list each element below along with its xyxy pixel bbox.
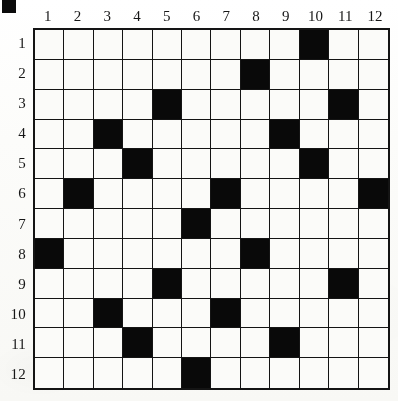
empty-cell-r4c2[interactable]	[64, 120, 93, 150]
empty-cell-r12c8[interactable]	[241, 358, 270, 388]
empty-cell-r11c2[interactable]	[64, 328, 93, 358]
empty-cell-r3c12[interactable]	[359, 90, 388, 120]
empty-cell-r9c12[interactable]	[359, 269, 388, 299]
empty-cell-r9c7[interactable]	[211, 269, 240, 299]
empty-cell-r11c3[interactable]	[94, 328, 123, 358]
empty-cell-r7c7[interactable]	[211, 209, 240, 239]
empty-cell-r10c11[interactable]	[329, 299, 358, 329]
empty-cell-r6c11[interactable]	[329, 179, 358, 209]
empty-cell-r5c7[interactable]	[211, 149, 240, 179]
empty-cell-r6c6[interactable]	[182, 179, 211, 209]
filled-cell-r4c9[interactable]	[270, 120, 299, 150]
empty-cell-r10c9[interactable]	[270, 299, 299, 329]
empty-cell-r10c12[interactable]	[359, 299, 388, 329]
empty-cell-r2c3[interactable]	[94, 60, 123, 90]
empty-cell-r2c12[interactable]	[359, 60, 388, 90]
empty-cell-r10c8[interactable]	[241, 299, 270, 329]
empty-cell-r4c1[interactable]	[35, 120, 64, 150]
empty-cell-r12c5[interactable]	[153, 358, 182, 388]
empty-cell-r7c5[interactable]	[153, 209, 182, 239]
filled-cell-r4c3[interactable]	[94, 120, 123, 150]
empty-cell-r10c2[interactable]	[64, 299, 93, 329]
empty-cell-r3c4[interactable]	[123, 90, 152, 120]
filled-cell-r5c4[interactable]	[123, 149, 152, 179]
empty-cell-r2c11[interactable]	[329, 60, 358, 90]
filled-cell-r8c1[interactable]	[35, 239, 64, 269]
filled-cell-r11c4[interactable]	[123, 328, 152, 358]
empty-cell-r7c9[interactable]	[270, 209, 299, 239]
empty-cell-r8c10[interactable]	[300, 239, 329, 269]
empty-cell-r2c5[interactable]	[153, 60, 182, 90]
empty-cell-r11c5[interactable]	[153, 328, 182, 358]
filled-cell-r9c5[interactable]	[153, 269, 182, 299]
filled-cell-r11c9[interactable]	[270, 328, 299, 358]
empty-cell-r4c6[interactable]	[182, 120, 211, 150]
empty-cell-r1c12[interactable]	[359, 30, 388, 60]
filled-cell-r2c8[interactable]	[241, 60, 270, 90]
empty-cell-r1c4[interactable]	[123, 30, 152, 60]
empty-cell-r8c7[interactable]	[211, 239, 240, 269]
empty-cell-r11c6[interactable]	[182, 328, 211, 358]
empty-cell-r5c5[interactable]	[153, 149, 182, 179]
empty-cell-r3c2[interactable]	[64, 90, 93, 120]
empty-cell-r12c9[interactable]	[270, 358, 299, 388]
empty-cell-r1c3[interactable]	[94, 30, 123, 60]
empty-cell-r6c5[interactable]	[153, 179, 182, 209]
empty-cell-r2c1[interactable]	[35, 60, 64, 90]
empty-cell-r5c1[interactable]	[35, 149, 64, 179]
empty-cell-r6c10[interactable]	[300, 179, 329, 209]
empty-cell-r3c9[interactable]	[270, 90, 299, 120]
empty-cell-r10c10[interactable]	[300, 299, 329, 329]
empty-cell-r4c10[interactable]	[300, 120, 329, 150]
filled-cell-r6c2[interactable]	[64, 179, 93, 209]
empty-cell-r1c9[interactable]	[270, 30, 299, 60]
empty-cell-r12c11[interactable]	[329, 358, 358, 388]
empty-cell-r2c4[interactable]	[123, 60, 152, 90]
empty-cell-r6c9[interactable]	[270, 179, 299, 209]
empty-cell-r2c6[interactable]	[182, 60, 211, 90]
empty-cell-r6c4[interactable]	[123, 179, 152, 209]
empty-cell-r1c1[interactable]	[35, 30, 64, 60]
empty-cell-r6c1[interactable]	[35, 179, 64, 209]
empty-cell-r8c5[interactable]	[153, 239, 182, 269]
empty-cell-r12c2[interactable]	[64, 358, 93, 388]
empty-cell-r9c4[interactable]	[123, 269, 152, 299]
empty-cell-r12c7[interactable]	[211, 358, 240, 388]
empty-cell-r12c4[interactable]	[123, 358, 152, 388]
filled-cell-r9c11[interactable]	[329, 269, 358, 299]
filled-cell-r7c6[interactable]	[182, 209, 211, 239]
empty-cell-r9c8[interactable]	[241, 269, 270, 299]
empty-cell-r3c8[interactable]	[241, 90, 270, 120]
empty-cell-r8c11[interactable]	[329, 239, 358, 269]
empty-cell-r1c7[interactable]	[211, 30, 240, 60]
filled-cell-r3c5[interactable]	[153, 90, 182, 120]
empty-cell-r4c11[interactable]	[329, 120, 358, 150]
filled-cell-r5c10[interactable]	[300, 149, 329, 179]
filled-cell-r1c10[interactable]	[300, 30, 329, 60]
empty-cell-r7c3[interactable]	[94, 209, 123, 239]
empty-cell-r11c8[interactable]	[241, 328, 270, 358]
filled-cell-r8c8[interactable]	[241, 239, 270, 269]
empty-cell-r3c1[interactable]	[35, 90, 64, 120]
empty-cell-r1c11[interactable]	[329, 30, 358, 60]
empty-cell-r10c5[interactable]	[153, 299, 182, 329]
empty-cell-r8c12[interactable]	[359, 239, 388, 269]
empty-cell-r8c3[interactable]	[94, 239, 123, 269]
empty-cell-r12c3[interactable]	[94, 358, 123, 388]
empty-cell-r8c6[interactable]	[182, 239, 211, 269]
empty-cell-r6c3[interactable]	[94, 179, 123, 209]
empty-cell-r9c3[interactable]	[94, 269, 123, 299]
empty-cell-r8c4[interactable]	[123, 239, 152, 269]
empty-cell-r5c3[interactable]	[94, 149, 123, 179]
empty-cell-r3c7[interactable]	[211, 90, 240, 120]
empty-cell-r7c2[interactable]	[64, 209, 93, 239]
empty-cell-r2c10[interactable]	[300, 60, 329, 90]
empty-cell-r3c6[interactable]	[182, 90, 211, 120]
empty-cell-r7c12[interactable]	[359, 209, 388, 239]
filled-cell-r12c6[interactable]	[182, 358, 211, 388]
empty-cell-r7c1[interactable]	[35, 209, 64, 239]
empty-cell-r3c10[interactable]	[300, 90, 329, 120]
empty-cell-r5c12[interactable]	[359, 149, 388, 179]
empty-cell-r1c6[interactable]	[182, 30, 211, 60]
empty-cell-r9c2[interactable]	[64, 269, 93, 299]
